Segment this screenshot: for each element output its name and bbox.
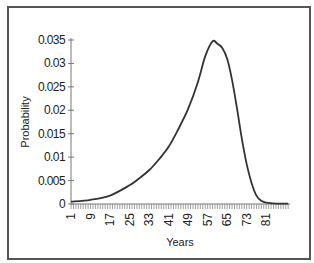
x-tick-label: 25 — [123, 213, 137, 227]
y-tick-label: 0.035 — [38, 33, 66, 47]
y-tick-label: 0 — [59, 197, 66, 211]
line-chart: 00.0050.010.0150.020.0250.030.0351917253… — [0, 0, 314, 263]
y-tick-label: 0.025 — [38, 80, 66, 94]
x-tick-label: 33 — [142, 213, 156, 227]
y-tick-label: 0.02 — [44, 103, 66, 117]
x-tick-label: 49 — [181, 213, 195, 227]
y-tick-label: 0.005 — [38, 174, 66, 188]
x-tick-label: 73 — [240, 213, 254, 227]
x-tick-label: 1 — [64, 213, 78, 220]
x-tick-label: 65 — [220, 213, 234, 227]
x-axis-label: Years — [166, 236, 194, 248]
x-tick-label: 57 — [201, 213, 215, 227]
data-line — [71, 41, 288, 204]
x-tick-label: 9 — [84, 213, 98, 220]
y-tick-label: 0.01 — [44, 150, 66, 164]
y-axis-label: Probability — [19, 96, 31, 147]
x-tick-label: 17 — [103, 213, 117, 227]
x-tick-label: 41 — [162, 213, 176, 227]
y-tick-label: 0.015 — [38, 127, 66, 141]
y-tick-label: 0.03 — [44, 56, 66, 70]
x-tick-label: 81 — [259, 213, 273, 227]
